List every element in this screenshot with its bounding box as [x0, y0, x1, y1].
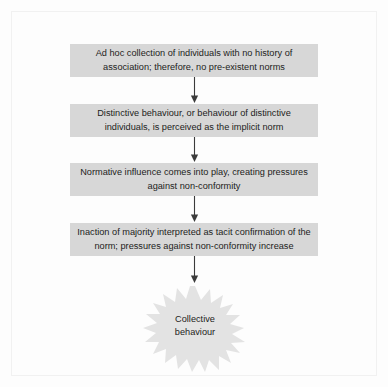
flowchart-diagram: Ad hoc collection of individuals with no… — [0, 0, 388, 387]
outcome-starburst: Collective behaviour — [137, 285, 253, 373]
flow-step-3-line-1: Normative influence comes into play, cre… — [80, 167, 265, 177]
outcome-label-line-1: Collective — [137, 313, 253, 326]
connector-arrow-1 — [189, 77, 200, 104]
flow-step-3-text: Normative influence comes into play, cre… — [76, 166, 312, 192]
flowchart-figure: Ad hoc collection of individuals with no… — [0, 0, 388, 387]
flow-step-2-text: Distinctive behaviour, or behaviour of d… — [76, 107, 312, 133]
flow-step-1-line-2: association; therefore, no pre-existent … — [103, 62, 285, 72]
flow-step-2-line-2: individuals, is perceived as the implici… — [105, 122, 284, 132]
flow-step-1-text: Ad hoc collection of individuals with no… — [76, 47, 312, 73]
outcome-label-line-2: behaviour — [137, 326, 253, 339]
outcome-label: Collective behaviour — [137, 313, 253, 338]
flow-step-2-line-1: Distinctive behaviour, or behaviour of d… — [97, 108, 291, 118]
connector-arrow-4 — [189, 256, 200, 284]
flow-step-1: Ad hoc collection of individuals with no… — [70, 44, 318, 77]
flow-step-2: Distinctive behaviour, or behaviour of d… — [70, 104, 318, 137]
flow-step-4-text: Inaction of majority interpreted as taci… — [76, 226, 312, 252]
flow-step-4: Inaction of majority interpreted as taci… — [70, 223, 318, 256]
connector-arrow-2 — [189, 137, 200, 163]
flow-step-4-line-1: Inaction of majority interpreted as taci… — [77, 227, 295, 237]
flow-step-1-line-1: Ad hoc collection of individuals with no… — [96, 48, 293, 58]
connector-arrow-3 — [189, 196, 200, 223]
flow-step-3: Normative influence comes into play, cre… — [70, 163, 318, 196]
